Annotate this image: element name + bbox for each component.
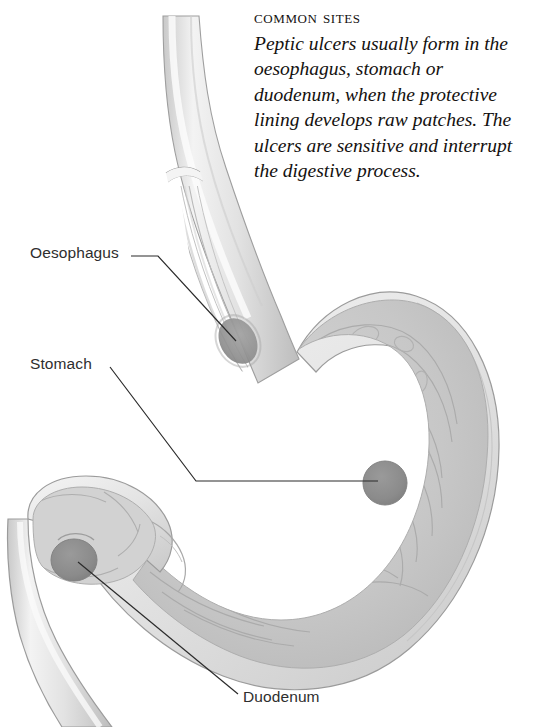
- leader-line-stomach: [110, 367, 378, 481]
- illustration-canvas: Common sites Peptic ulcers usually form …: [0, 0, 542, 727]
- caption-body: Peptic ulcers usually form in the oesoph…: [254, 31, 532, 184]
- label-duodenum: Duodenum: [243, 688, 320, 706]
- gastric-ulcer: [363, 461, 407, 505]
- caption-title: Common sites: [254, 6, 532, 28]
- caption-block: Common sites Peptic ulcers usually form …: [254, 6, 532, 184]
- label-stomach: Stomach: [30, 355, 92, 373]
- label-oesophagus: Oesophagus: [30, 244, 119, 262]
